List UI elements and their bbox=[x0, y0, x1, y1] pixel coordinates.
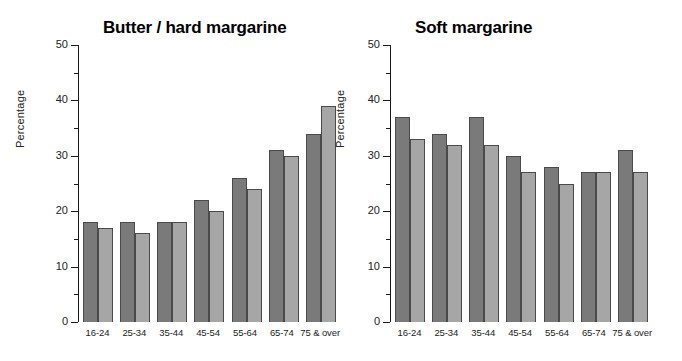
bar bbox=[469, 117, 484, 322]
x-tick-label: 55-64 bbox=[539, 327, 576, 338]
y-tick-minor bbox=[386, 294, 390, 295]
y-tick-major bbox=[71, 45, 78, 46]
y-tick-label: 30 bbox=[42, 149, 68, 161]
y-tick-label: 30 bbox=[354, 149, 380, 161]
bar-group bbox=[228, 45, 265, 322]
x-tick-label: 35-44 bbox=[153, 327, 190, 338]
x-tick-label: 25-34 bbox=[116, 327, 153, 338]
bar-group bbox=[391, 45, 428, 322]
chart-page: Butter / hard margarine Percentage 01020… bbox=[0, 0, 682, 361]
y-tick-label: 50 bbox=[354, 38, 380, 50]
y-tick-major bbox=[71, 322, 78, 323]
y-tick-minor bbox=[386, 73, 390, 74]
y-tick-major bbox=[383, 322, 390, 323]
y-tick-label: 40 bbox=[354, 93, 380, 105]
y-tick-label: 10 bbox=[354, 260, 380, 272]
y-tick-minor bbox=[386, 239, 390, 240]
x-axis-labels: 16-2425-3435-4445-5455-6465-7475 & over bbox=[391, 327, 652, 338]
bar bbox=[120, 222, 135, 322]
y-tick-label: 20 bbox=[42, 204, 68, 216]
y-tick-major bbox=[383, 100, 390, 101]
plot-area: 01020304050 16-2425-3435-4445-5455-6465-… bbox=[78, 45, 340, 322]
bar bbox=[618, 150, 633, 322]
bar-group bbox=[577, 45, 614, 322]
y-tick-label: 0 bbox=[354, 315, 380, 327]
bar bbox=[447, 145, 462, 322]
bar bbox=[306, 134, 321, 322]
bar bbox=[209, 211, 224, 322]
bar-group bbox=[540, 45, 577, 322]
y-tick-major bbox=[71, 211, 78, 212]
bar-group bbox=[428, 45, 465, 322]
bar bbox=[194, 200, 209, 322]
bar bbox=[232, 178, 247, 322]
bar bbox=[284, 156, 299, 322]
bar-group bbox=[154, 45, 191, 322]
y-tick-minor bbox=[74, 73, 78, 74]
bar bbox=[247, 189, 262, 322]
bar bbox=[506, 156, 521, 322]
bar bbox=[633, 172, 648, 322]
x-tick-label: 45-54 bbox=[190, 327, 227, 338]
x-axis-labels: 16-2425-3435-4445-5455-6465-7475 & over bbox=[79, 327, 340, 338]
bar-group bbox=[615, 45, 652, 322]
y-tick-major bbox=[383, 156, 390, 157]
bar-group bbox=[466, 45, 503, 322]
y-tick-minor bbox=[386, 184, 390, 185]
bar bbox=[157, 222, 172, 322]
bar bbox=[395, 117, 410, 322]
x-tick-label: 45-54 bbox=[502, 327, 539, 338]
y-tick-minor bbox=[74, 294, 78, 295]
bar bbox=[484, 145, 499, 322]
y-axis-label: Percentage bbox=[334, 90, 346, 148]
bar bbox=[581, 172, 596, 322]
x-tick-label: 75 & over bbox=[612, 327, 652, 338]
bar-group bbox=[265, 45, 302, 322]
bar bbox=[596, 172, 611, 322]
x-tick-label: 16-24 bbox=[391, 327, 428, 338]
y-tick-minor bbox=[74, 128, 78, 129]
bar bbox=[172, 222, 187, 322]
y-tick-major bbox=[383, 267, 390, 268]
bar bbox=[521, 172, 536, 322]
y-tick-label: 10 bbox=[42, 260, 68, 272]
y-tick-major bbox=[383, 211, 390, 212]
x-tick-label: 25-34 bbox=[428, 327, 465, 338]
bar-group bbox=[79, 45, 116, 322]
chart-panel-soft-margarine: Soft margarine Percentage 01020304050 16… bbox=[332, 0, 682, 361]
x-tick-label: 35-44 bbox=[465, 327, 502, 338]
y-tick-label: 20 bbox=[354, 204, 380, 216]
plot-area: 01020304050 16-2425-3435-4445-5455-6465-… bbox=[390, 45, 652, 322]
y-tick-major bbox=[71, 156, 78, 157]
y-tick-major bbox=[71, 267, 78, 268]
y-tick-minor bbox=[74, 239, 78, 240]
bar-group bbox=[503, 45, 540, 322]
chart-title: Butter / hard margarine bbox=[103, 18, 286, 38]
chart-title: Soft margarine bbox=[415, 18, 532, 38]
y-tick-label: 40 bbox=[42, 93, 68, 105]
bar bbox=[544, 167, 559, 322]
x-tick-label: 65-74 bbox=[263, 327, 300, 338]
bar bbox=[432, 134, 447, 322]
x-tick-label: 55-64 bbox=[227, 327, 264, 338]
bar bbox=[410, 139, 425, 322]
y-tick-label: 50 bbox=[42, 38, 68, 50]
bar-groups bbox=[391, 45, 652, 322]
bar bbox=[135, 233, 150, 322]
bar bbox=[98, 228, 113, 322]
x-tick-label: 16-24 bbox=[79, 327, 116, 338]
y-tick-major bbox=[71, 100, 78, 101]
y-tick-minor bbox=[386, 128, 390, 129]
bar-group bbox=[116, 45, 153, 322]
x-tick-label: 65-74 bbox=[575, 327, 612, 338]
y-tick-minor bbox=[74, 184, 78, 185]
bar bbox=[269, 150, 284, 322]
chart-panel-butter-hard-margarine: Butter / hard margarine Percentage 01020… bbox=[0, 0, 350, 361]
y-axis-label: Percentage bbox=[14, 90, 26, 148]
bar-groups bbox=[79, 45, 340, 322]
y-tick-label: 0 bbox=[42, 315, 68, 327]
bar bbox=[559, 184, 574, 323]
y-tick-major bbox=[383, 45, 390, 46]
bar-group bbox=[191, 45, 228, 322]
bar bbox=[83, 222, 98, 322]
